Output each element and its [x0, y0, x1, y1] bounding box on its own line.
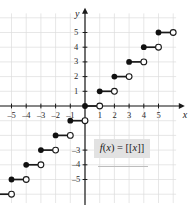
x-tick--3: –3 — [37, 111, 45, 120]
x-tick--5: –5 — [8, 111, 16, 120]
y-axis-label: y — [75, 9, 79, 19]
step-function-figure: –5–4–3–2–11234554321–3–4–5 x y f(x) = [[… — [0, 0, 190, 206]
y-tick--3: –3 — [72, 146, 80, 155]
x-tick-5: 5 — [157, 111, 161, 120]
x-tick-2: 2 — [112, 111, 116, 120]
y-tick--4: –4 — [72, 160, 80, 169]
x-tick-3: 3 — [127, 111, 131, 120]
x-tick--1: –1 — [66, 111, 74, 120]
y-tick-4: 4 — [74, 43, 78, 52]
x-tick--2: –2 — [52, 111, 60, 120]
y-tick-2: 2 — [74, 72, 78, 81]
x-axis-label: x — [183, 110, 187, 120]
plot-canvas — [0, 0, 190, 206]
formula-text: f(x) = [[x]] — [100, 143, 144, 154]
y-tick--5: –5 — [72, 175, 80, 184]
y-tick-1: 1 — [74, 87, 78, 96]
y-tick-3: 3 — [74, 57, 78, 66]
formula-underline — [98, 166, 148, 167]
formula-callout: f(x) = [[x]] — [94, 139, 150, 158]
x-tick--4: –4 — [22, 111, 30, 120]
x-tick-1: 1 — [98, 111, 102, 120]
x-tick-4: 4 — [142, 111, 146, 120]
y-tick-5: 5 — [74, 28, 78, 37]
